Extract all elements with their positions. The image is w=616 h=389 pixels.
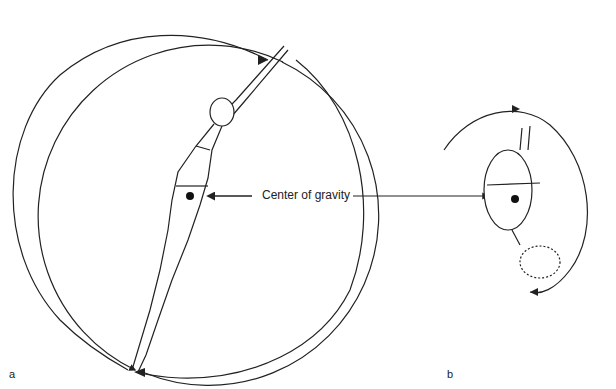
- panel-label-b: b: [447, 368, 453, 380]
- center-of-gravity-label: Center of gravity: [262, 188, 350, 202]
- center-of-gravity-dot-a: [186, 192, 194, 200]
- panel-label-a: a: [9, 368, 15, 380]
- diver-tuck-figure: [484, 126, 560, 278]
- rotation-circle-a: [13, 35, 364, 378]
- center-of-gravity-dot-b: [511, 195, 519, 203]
- diver-layout-figure: [132, 46, 288, 372]
- diagram-canvas: Center of gravity a b: [0, 0, 616, 389]
